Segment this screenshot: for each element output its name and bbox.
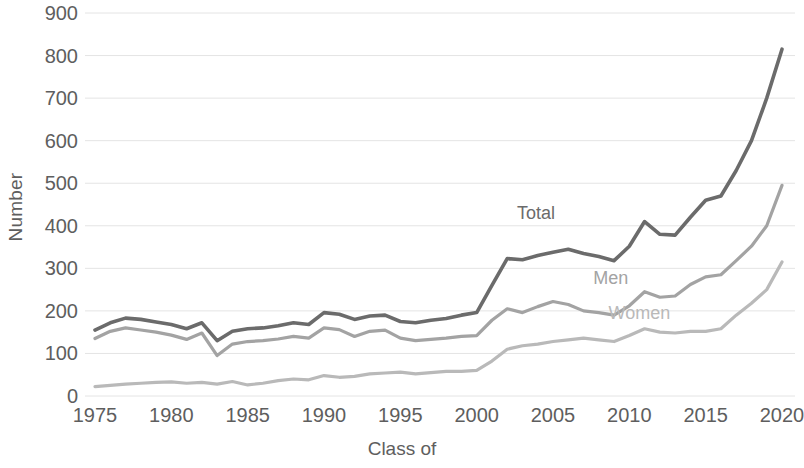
x-tick-label: 1975 xyxy=(73,404,118,427)
plot-area xyxy=(0,0,804,468)
series-label-men: Men xyxy=(593,268,628,289)
x-tick-label: 1995 xyxy=(378,404,423,427)
series-line-total xyxy=(95,49,782,341)
x-tick-label: 1985 xyxy=(225,404,270,427)
x-tick-label: 1980 xyxy=(149,404,194,427)
series-label-total: Total xyxy=(517,203,555,224)
x-tick-label: 2010 xyxy=(607,404,652,427)
line-chart: 9008007006005004003002001000 Number Clas… xyxy=(0,0,804,468)
series-label-women: Women xyxy=(609,303,671,324)
x-tick-label: 2020 xyxy=(760,404,804,427)
x-tick-label: 2000 xyxy=(454,404,499,427)
series-line-men xyxy=(95,185,782,355)
x-tick-label: 1990 xyxy=(302,404,347,427)
x-tick-label: 2005 xyxy=(531,404,576,427)
x-tick-label: 2015 xyxy=(683,404,728,427)
